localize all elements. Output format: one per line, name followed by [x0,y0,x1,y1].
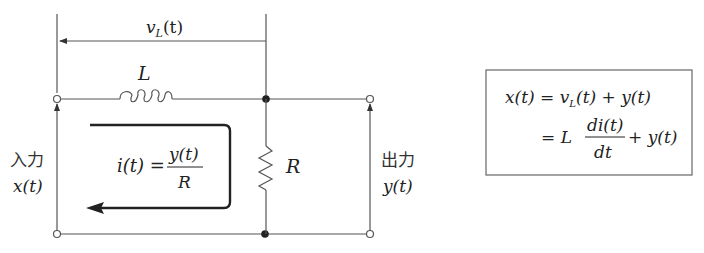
output-label: 出力 [381,150,415,170]
equation-line-2-denominator: dt [594,142,612,162]
resistor-label: R [285,155,300,177]
output-terminal-bottom [367,231,374,238]
output-terminal-top [367,96,374,103]
equation-box: x(t) = vL(t) + y(t) = L di(t) dt + y(t) [486,70,692,175]
equation-line-2-rest: + y(t) [628,127,677,147]
input-label: 入力 [10,150,44,170]
current-equation: i(t) = y(t) R [117,144,203,192]
inductor-symbol [120,90,172,102]
current-lhs: i(t) = [117,155,165,176]
resistor-branch [259,99,272,234]
rl-circuit-diagram: vL(t) L R 入力 x(t) 出力 y(t) i(t) = y(t) [0,0,704,253]
resistor-symbol [259,146,272,190]
equation-line-1: x(t) = vL(t) + y(t) [505,87,651,109]
inductor-label: L [137,62,151,84]
top-wire [60,90,367,102]
equation-line-2-numerator: di(t) [587,115,623,135]
voltage-vl-indicator: vL(t) [57,14,266,99]
equation-line-2-eq: = L [541,127,572,147]
vl-label: vL(t) [146,17,183,40]
input-terminal-bottom [54,231,61,238]
input-signal: x(t) [13,176,43,196]
input-terminal-top [54,96,61,103]
current-numerator: y(t) [168,144,199,164]
junction-dot-bottom [261,230,269,238]
current-denominator: R [177,172,191,192]
output-signal: y(t) [382,176,413,196]
